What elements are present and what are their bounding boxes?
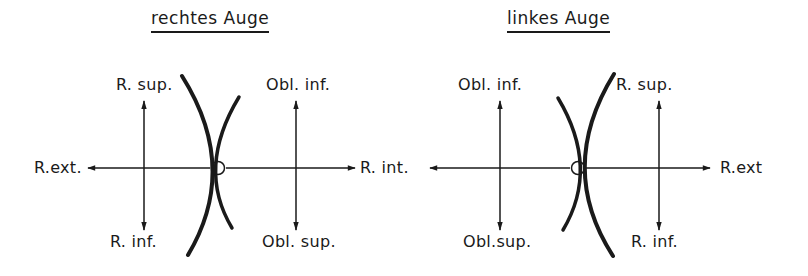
curve-long xyxy=(182,76,213,255)
label-bottom-right: R. inf. xyxy=(631,234,678,250)
left-eye-diagram xyxy=(430,74,710,256)
label-bottom-left: Obl.sup. xyxy=(463,234,531,250)
label-left: R.ext. xyxy=(34,160,82,176)
label-right: R. int. xyxy=(360,160,409,176)
center-circle xyxy=(572,162,585,175)
label-top-right: R. sup. xyxy=(616,77,673,93)
label-right: R.ext xyxy=(720,160,762,176)
curve-short xyxy=(558,98,580,230)
label-bottom-right: Obl. sup. xyxy=(262,234,336,250)
label-bottom-left: R. inf. xyxy=(110,234,157,250)
diagram-title-left-eye: linkes Auge xyxy=(507,10,610,33)
diagram-title-right-eye: rechtes Auge xyxy=(151,10,269,33)
label-top-right: Obl. inf. xyxy=(266,77,330,93)
label-top-left: R. sup. xyxy=(116,77,173,93)
right-eye-diagram xyxy=(88,76,355,255)
curve-long xyxy=(585,74,614,256)
curve-short xyxy=(216,97,239,228)
label-top-left: Obl. inf. xyxy=(458,77,522,93)
